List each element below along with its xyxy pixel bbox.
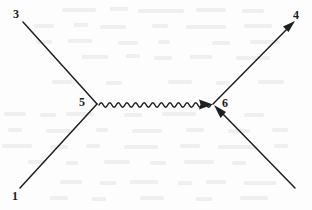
vertex-label-6: 6 xyxy=(222,97,228,109)
incoming-line-1 xyxy=(20,104,97,188)
external-label-4: 4 xyxy=(293,9,299,21)
feynman-diagram xyxy=(0,0,312,210)
arrowhead-propagator xyxy=(199,100,213,110)
external-label-1: 1 xyxy=(12,190,18,202)
external-label-3: 3 xyxy=(13,8,19,20)
vertex-label-5: 5 xyxy=(79,96,85,108)
figure-canvas: 3 1 4 5 6 xyxy=(0,0,312,210)
wavy-propagator xyxy=(99,103,211,107)
incoming-line-bottom-right xyxy=(221,112,295,188)
incoming-line-3 xyxy=(23,22,97,104)
outgoing-line-4 xyxy=(213,27,289,104)
